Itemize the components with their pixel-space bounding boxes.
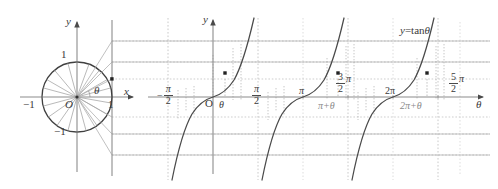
- tangent-graph-panel: [148, 18, 483, 180]
- xtick-pi: π: [299, 86, 304, 96]
- denominator: 2: [253, 96, 260, 106]
- curve-marked-points: [223, 71, 428, 74]
- left-y-axis-label: y: [66, 16, 71, 27]
- left-tick-y-bottom: −1: [54, 126, 66, 137]
- xtick-two-pi: 2π: [385, 86, 395, 96]
- marked-point-two-pi-plus-theta: [425, 71, 428, 74]
- point-label-theta: θ: [219, 100, 224, 110]
- title-function: tan: [411, 24, 424, 36]
- xtick-half-pi: π 2: [252, 84, 261, 106]
- pi-symbol: π: [346, 73, 351, 84]
- xtick-neg-half-pi: − π 2: [157, 84, 173, 106]
- vertical-gridlines: [303, 18, 460, 180]
- left-marked-point: [110, 77, 113, 80]
- numerator: 5: [450, 72, 457, 82]
- graph-title: y=tanθ: [400, 24, 430, 36]
- numerator: π: [253, 84, 260, 94]
- point-label-two-pi-plus-theta: 2π+θ: [400, 101, 422, 111]
- pi-symbol: π: [459, 73, 464, 84]
- numerator: π: [165, 84, 172, 94]
- theta-axis-label: θ: [476, 99, 481, 110]
- left-x-axis-label: x: [124, 86, 129, 97]
- point-label-pi-plus-theta: π+θ: [318, 101, 335, 111]
- left-tick-y-top: 1: [61, 49, 67, 60]
- left-origin-dot: [75, 95, 78, 98]
- denominator: 2: [165, 96, 172, 106]
- denominator: 2: [450, 84, 457, 94]
- right-y-axis-label: y: [203, 14, 208, 25]
- left-tick-x-right: 1: [108, 99, 114, 110]
- right-origin-label: O: [205, 98, 213, 109]
- minus-sign: −: [157, 90, 163, 101]
- denominator: 2: [337, 84, 344, 94]
- figure-container: y x O θ 1 −1 −1 1 y θ O θ π+θ 2π+θ − π 2…: [0, 0, 498, 189]
- unit-circle-panel: [20, 20, 133, 176]
- left-tick-x-left: −1: [23, 99, 35, 110]
- marked-point-theta: [223, 71, 226, 74]
- xtick-three-half-pi: 3 2 π: [336, 72, 351, 94]
- left-angle-label: θ: [94, 85, 99, 96]
- left-origin-label: O: [65, 99, 73, 110]
- xtick-five-half-pi: 5 2 π: [449, 72, 464, 94]
- title-argument: θ: [425, 24, 430, 36]
- numerator: 3: [337, 72, 344, 82]
